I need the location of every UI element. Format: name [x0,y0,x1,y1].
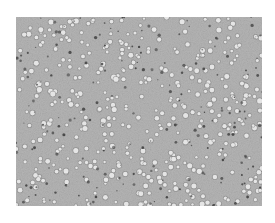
figure [0,0,275,223]
figure-caption [0,210,275,223]
cell-micrograph [16,17,262,206]
cell-field-image [16,17,262,206]
